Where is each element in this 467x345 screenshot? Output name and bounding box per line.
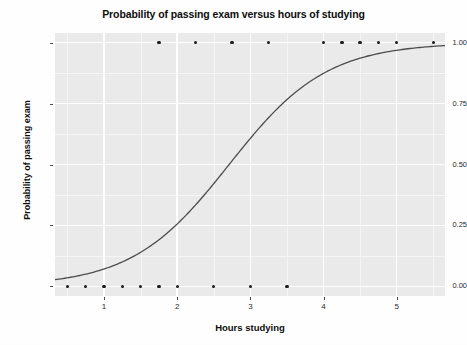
y-tick-mark-0.50 <box>50 165 53 166</box>
x-tick-mark-4 <box>324 297 325 300</box>
data-point <box>102 285 105 288</box>
y-tick-mark-0.00 <box>50 286 53 287</box>
plot-panel <box>55 33 445 296</box>
x-tick-label-3: 3 <box>235 302 265 311</box>
data-point <box>249 285 252 288</box>
data-point <box>121 285 124 288</box>
x-tick-mark-2 <box>177 297 178 300</box>
x-tick-label-4: 4 <box>309 302 339 311</box>
x-tick-mark-1 <box>104 297 105 300</box>
logistic-curve <box>55 33 445 296</box>
x-tick-label-1: 1 <box>89 302 119 311</box>
x-tick-label-5: 5 <box>382 302 412 311</box>
data-point <box>176 285 179 288</box>
y-tick-mark-0.75 <box>50 104 53 105</box>
y-axis-title: Probability of passing exam <box>22 60 32 260</box>
x-tick-mark-3 <box>250 297 251 300</box>
x-axis-title: Hours studying <box>55 322 445 333</box>
y-tick-mark-0.25 <box>50 225 53 226</box>
data-point <box>66 285 69 288</box>
x-tick-mark-5 <box>397 297 398 300</box>
data-point <box>157 285 160 288</box>
chart-title: Probability of passing exam versus hours… <box>0 8 467 20</box>
y-tick-mark-1.00 <box>50 43 53 44</box>
x-tick-label-2: 2 <box>162 302 192 311</box>
chart-figure: Probability of passing exam versus hours… <box>0 0 467 345</box>
logistic-curve-path <box>55 46 445 280</box>
data-point <box>285 285 288 288</box>
